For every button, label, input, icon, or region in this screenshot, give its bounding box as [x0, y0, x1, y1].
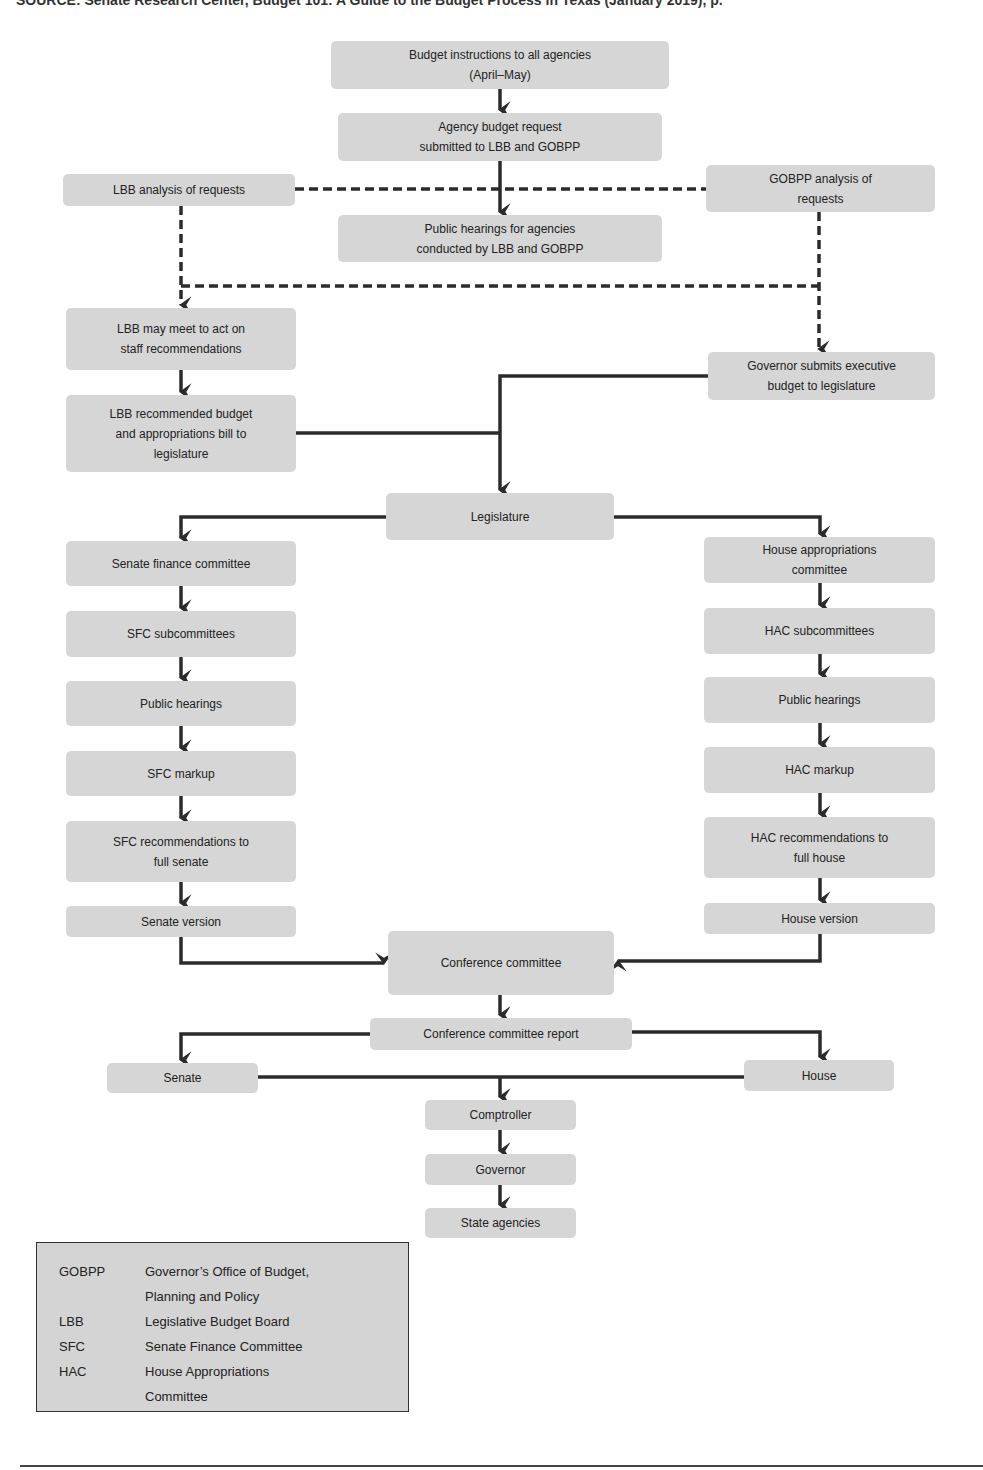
node-sfc-subcommittees[interactable]: SFC subcommittees	[66, 611, 296, 657]
node-sfc-recommendations[interactable]: SFC recommendations to full senate	[66, 821, 296, 882]
node-house-version[interactable]: House version	[704, 903, 935, 934]
legend-abbr: LBB	[59, 1309, 145, 1334]
node-governor-submits[interactable]: Governor submits executive budget to leg…	[708, 352, 935, 400]
legend-row: HAC House Appropriations Committee	[59, 1359, 408, 1409]
node-hac-markup[interactable]: HAC markup	[704, 747, 935, 793]
node-senate-public-hearings[interactable]: Public hearings	[66, 681, 296, 726]
legend-definition: House Appropriations Committee	[145, 1359, 269, 1409]
node-senate-finance-committee[interactable]: Senate finance committee	[66, 541, 296, 586]
legend-row: LBB Legislative Budget Board	[59, 1309, 408, 1334]
node-conference-committee-report[interactable]: Conference committee report	[370, 1018, 632, 1050]
legend-abbr: GOBPP	[59, 1259, 145, 1309]
node-lbb-analysis[interactable]: LBB analysis of requests	[63, 174, 295, 206]
legend-abbr: HAC	[59, 1359, 145, 1409]
legend-definition: Senate Finance Committee	[145, 1334, 303, 1359]
node-state-agencies[interactable]: State agencies	[425, 1208, 576, 1238]
node-senate[interactable]: Senate	[107, 1063, 258, 1093]
node-legislature[interactable]: Legislature	[386, 493, 614, 540]
legend-abbr: SFC	[59, 1334, 145, 1359]
node-conference-committee[interactable]: Conference committee	[388, 931, 614, 995]
node-house[interactable]: House	[744, 1060, 894, 1091]
node-budget-instructions[interactable]: Budget instructions to all agencies (Apr…	[331, 41, 669, 89]
node-gobpp-analysis[interactable]: GOBPP analysis of requests	[706, 165, 935, 212]
legend-row: SFC Senate Finance Committee	[59, 1334, 408, 1359]
legend-definition: Governor’s Office of Budget, Planning an…	[145, 1259, 309, 1309]
node-governor[interactable]: Governor	[425, 1154, 576, 1185]
node-house-appropriations-committee[interactable]: House appropriations committee	[704, 537, 935, 583]
node-senate-version[interactable]: Senate version	[66, 906, 296, 937]
page-bottom-rule	[20, 1465, 983, 1467]
legend-row: GOBPP Governor’s Office of Budget, Plann…	[59, 1259, 408, 1309]
node-comptroller[interactable]: Comptroller	[425, 1100, 576, 1130]
abbreviation-legend: GOBPP Governor’s Office of Budget, Plann…	[36, 1242, 409, 1412]
node-hac-recommendations[interactable]: HAC recommendations to full house	[704, 817, 935, 878]
node-sfc-markup[interactable]: SFC markup	[66, 751, 296, 796]
node-public-hearings-agencies[interactable]: Public hearings for agencies conducted b…	[338, 215, 662, 262]
legend-definition: Legislative Budget Board	[145, 1309, 290, 1334]
node-house-public-hearings[interactable]: Public hearings	[704, 677, 935, 723]
node-hac-subcommittees[interactable]: HAC subcommittees	[704, 608, 935, 654]
node-lbb-may-meet[interactable]: LBB may meet to act on staff recommendat…	[66, 308, 296, 370]
node-lbb-recommended[interactable]: LBB recommended budget and appropriation…	[66, 395, 296, 472]
node-agency-budget-request[interactable]: Agency budget request submitted to LBB a…	[338, 113, 662, 161]
